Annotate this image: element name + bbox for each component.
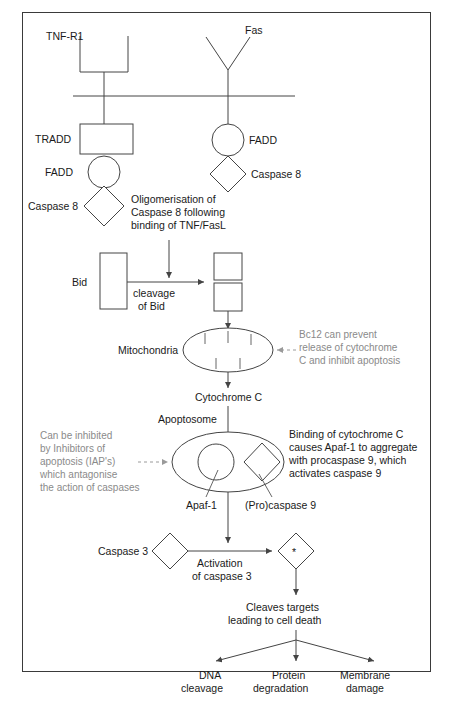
iap-annotation-line-4: which antagonise [39, 469, 118, 480]
bid-box [100, 253, 127, 309]
caspase3-diamond [152, 533, 188, 569]
tnf-r1-label: TNF-R1 [46, 30, 83, 42]
tnf-r1-receptor-shape [80, 36, 128, 72]
outcome-branch-3-line-1: Membrane [340, 669, 390, 681]
fadd-left-circle [88, 156, 120, 188]
iap-annotation-line-1: Can be inhibited [40, 430, 112, 441]
iap-annotation-line-3: apoptosis (IAP's) [40, 456, 115, 467]
tradd-box [80, 124, 133, 154]
cytochrome-binding-line-3: with procaspase 9, which [288, 454, 406, 466]
apoptosis-pathway-diagram: TNF-R1 Fas TRADD FADD Caspase 8 FADD Cas… [0, 0, 453, 708]
fadd-right-label: FADD [249, 134, 277, 146]
apoptosome-label: Apoptosome [158, 413, 217, 425]
fadd-left-label: FADD [45, 166, 73, 178]
activation-label-line-2: of caspase 3 [192, 570, 252, 582]
procaspase9-label: (Pro)caspase 9 [245, 499, 316, 511]
cytochrome-c-label: Cytochrome C [195, 391, 263, 403]
iap-annotation-line-5: the action of caspases [40, 482, 140, 493]
active-caspase3-marker: * [292, 546, 296, 558]
cleavage-label-line-1: cleavage [133, 287, 175, 299]
figure-root: TNF-R1 Fas TRADD FADD Caspase 8 FADD Cas… [0, 0, 453, 708]
fadd-right-circle [212, 124, 244, 156]
caspase8-left-diamond [84, 186, 124, 226]
outcome-branch-3-line-2: damage [346, 682, 384, 694]
outcome-branch-1-line-2: cleavage [181, 682, 223, 694]
caspase8-right-diamond [210, 156, 246, 192]
outcome-branch-2-line-1: Protein [272, 669, 305, 681]
bcl2-annotation-line-3: C and inhibit apoptosis [299, 355, 400, 366]
outcome-branch-2-line-2: degradation [253, 682, 309, 694]
cleavage-label-line-2: of Bid [138, 300, 165, 312]
outcome-branch-arrow-3 [296, 640, 374, 661]
oligomerisation-line-1: Oligomerisation of [131, 193, 216, 205]
caspase8-left-label: Caspase 8 [28, 200, 78, 212]
cytochrome-binding-line-2: causes Apaf-1 to aggregate [289, 441, 418, 453]
tradd-label: TRADD [35, 133, 72, 145]
cleaved-bid-lower-box [214, 283, 242, 311]
fas-receptor-shape [206, 37, 250, 70]
cleaves-targets-line-1: Cleaves targets [246, 601, 319, 613]
mitochondria-label: Mitochondria [118, 344, 178, 356]
bcl2-annotation-line-2: release of cytochrome [299, 342, 398, 353]
bcl2-annotation-line-1: Bc12 can prevent [299, 329, 377, 340]
outcome-branch-arrow-1 [216, 640, 296, 661]
outcome-branch-1-line-1: DNA [199, 669, 221, 681]
apaf1-label: Apaf-1 [186, 499, 217, 511]
cleaved-bid-upper-box [214, 253, 242, 280]
cleaves-targets-line-2: leading to cell death [228, 614, 322, 626]
activation-label-line-1: Activation [197, 557, 243, 569]
bid-label: Bid [72, 276, 87, 288]
iap-annotation-line-2: by Inhibitors of [40, 443, 105, 454]
cytochrome-binding-line-1: Binding of cytochrome C [289, 428, 404, 440]
caspase8-right-label: Caspase 8 [251, 168, 301, 180]
fas-label: Fas [245, 24, 263, 36]
cytochrome-binding-line-4: activates caspase 9 [289, 467, 381, 479]
oligomerisation-line-2: Caspase 8 following [131, 206, 225, 218]
caspase3-label: Caspase 3 [98, 545, 148, 557]
oligomerisation-line-3: binding of TNF/FasL [131, 219, 226, 231]
